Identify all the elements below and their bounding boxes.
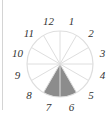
- clock-label-7: 7: [46, 101, 52, 112]
- clock-label-12: 12: [43, 16, 54, 27]
- clock-label-11: 11: [24, 27, 34, 38]
- clock-label-5: 5: [88, 90, 94, 101]
- clock-label-10: 10: [12, 47, 23, 58]
- clock-circle-diagram: [0, 0, 110, 119]
- clock-label-4: 4: [100, 70, 106, 81]
- clock-label-8: 8: [26, 90, 32, 101]
- clock-label-9: 9: [15, 70, 21, 81]
- clock-label-2: 2: [88, 27, 94, 38]
- clock-label-1: 1: [69, 16, 75, 27]
- clock-label-3: 3: [100, 47, 106, 58]
- clock-label-6: 6: [69, 101, 75, 112]
